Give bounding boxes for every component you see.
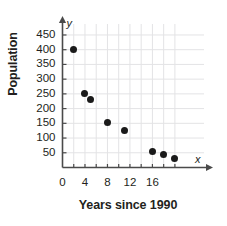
data-point [160,151,167,158]
x-tick-label: 16 [139,177,165,188]
y-tick-label: 350 [22,58,56,69]
y-tick-label: 200 [22,103,56,114]
scatter-plot-figure: Population Years since 1990 501001502002… [0,0,227,226]
y-tick-label: 300 [22,73,56,84]
y-tick-label: 150 [22,117,56,128]
y-tick-label: 250 [22,88,56,99]
y-tick-label: 50 [22,147,56,158]
data-point [121,127,128,134]
y-variable-label: y [67,17,73,29]
x-variable-label: x [195,153,201,165]
y-tick-label: 100 [22,132,56,143]
y-tick-label: 450 [22,29,56,40]
y-tick-label: 400 [22,44,56,55]
